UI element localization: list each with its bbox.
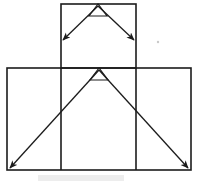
arrow-lower-right bbox=[99, 70, 188, 168]
faint-caption-smudge bbox=[38, 175, 124, 181]
arrow-upper-left bbox=[63, 6, 98, 40]
lower-rectangle bbox=[7, 68, 191, 170]
arrow-upper-right bbox=[98, 6, 134, 40]
upper-rectangle bbox=[61, 4, 136, 68]
figure-canvas bbox=[0, 0, 199, 183]
scan-speck bbox=[157, 41, 159, 43]
lower-apex-triangle bbox=[90, 68, 108, 80]
upper-apex-triangle bbox=[89, 4, 107, 16]
arrow-lower-left bbox=[10, 70, 99, 168]
figure-diagram bbox=[0, 0, 199, 183]
